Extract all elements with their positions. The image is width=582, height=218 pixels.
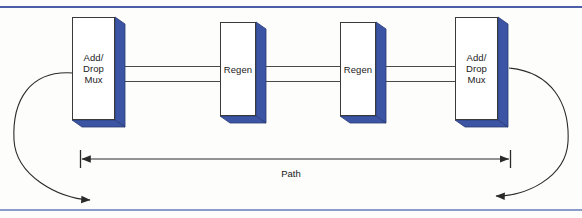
path-measure-arrow [0,0,582,218]
network-path-diagram: Path Add/ Drop Mux Regen Regen [0,0,582,218]
